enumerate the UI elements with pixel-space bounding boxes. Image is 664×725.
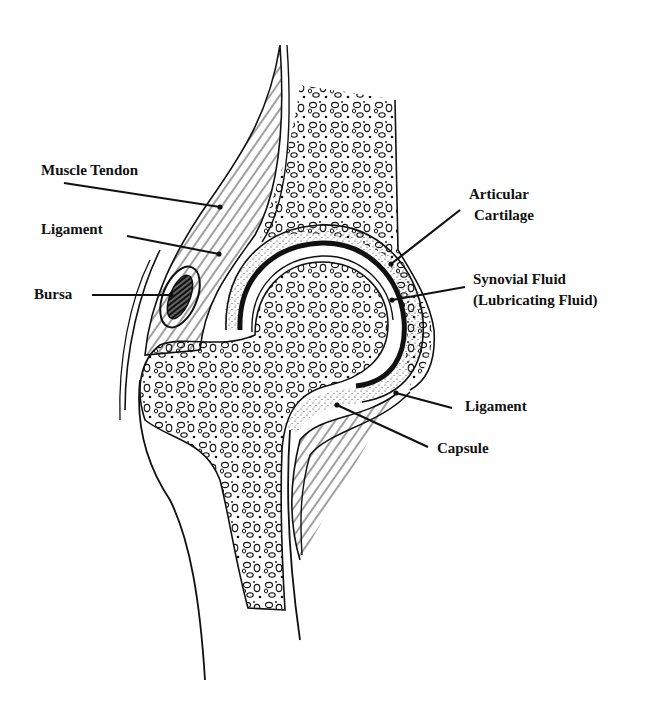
label-muscle-tendon: Muscle Tendon [41, 160, 138, 180]
leader-dot-ligament-upper [216, 251, 221, 256]
label-bursa: Bursa [34, 284, 72, 304]
leader-dot-articular-cartilage [388, 261, 393, 266]
label-capsule: Capsule [437, 438, 489, 458]
label-ligament-lower: Ligament [465, 396, 527, 416]
label-synovial-fluid: Synovial Fluid (Lubricating Fluid) [473, 269, 598, 311]
label-synovial-fluid-line1: Synovial Fluid [473, 269, 598, 290]
leader-line-muscle-tendon [64, 183, 220, 207]
leader-dot-capsule [334, 402, 339, 407]
leader-dot-synovial-fluid [389, 297, 394, 302]
leader-dot-bursa [168, 292, 173, 297]
joint-diagram: Muscle Tendon Ligament Bursa Articular C… [0, 0, 664, 725]
label-synovial-fluid-line2: (Lubricating Fluid) [473, 290, 598, 311]
label-articular-cartilage: Articular Cartilage [469, 184, 534, 226]
leader-line-ligament-lower [396, 393, 452, 408]
joint-illustration [0, 0, 664, 725]
leader-dot-ligament-lower [393, 390, 398, 395]
label-articular-cartilage-line1: Articular [469, 184, 534, 205]
leader-dot-muscle-tendon [217, 204, 222, 209]
label-ligament-upper: Ligament [41, 219, 103, 239]
label-articular-cartilage-line2: Cartilage [469, 205, 534, 226]
leader-line-articular-cartilage [391, 210, 460, 264]
